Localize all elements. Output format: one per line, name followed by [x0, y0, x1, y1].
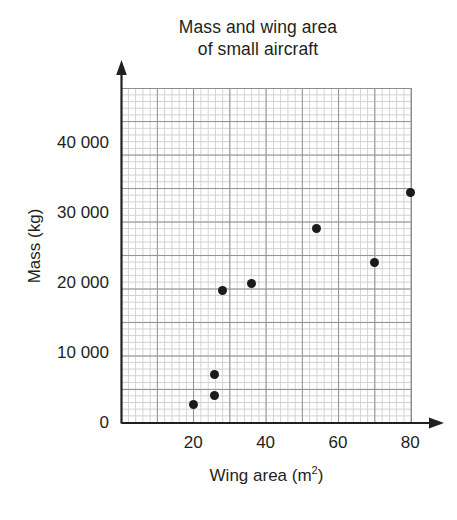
grid-right-edge — [411, 88, 412, 423]
plot-area — [121, 88, 412, 423]
y-axis-tick-label: 10 000 — [17, 343, 109, 363]
data-point — [312, 224, 321, 233]
data-point — [247, 279, 256, 288]
y-axis-tick-label: 40 000 — [17, 133, 109, 153]
chart-title: Mass and wing area of small aircraft — [108, 16, 408, 60]
grid-top-edge — [121, 88, 412, 89]
x-axis-title-tail: ) — [318, 466, 324, 485]
data-point — [370, 258, 379, 267]
y-axis-title: Mass (kg) — [25, 166, 45, 326]
data-point — [189, 400, 198, 409]
x-axis-tick-label: 40 — [242, 433, 290, 453]
data-point — [210, 391, 219, 400]
x-axis-tick-label: 60 — [314, 433, 362, 453]
data-point — [218, 286, 227, 295]
x-axis-tick-label: 20 — [169, 433, 217, 453]
scatter-chart-figure: Mass and wing area of small aircraft 010… — [0, 0, 457, 520]
major-gridlines — [121, 88, 412, 423]
data-point — [406, 188, 415, 197]
x-axis-title-text: Wing area (m — [210, 466, 312, 485]
chart-title-line-2: of small aircraft — [108, 38, 408, 60]
x-axis-title: Wing area (m2) — [121, 466, 412, 486]
y-axis-tick-label: 0 — [17, 413, 109, 433]
x-axis-tick-label: 80 — [386, 433, 434, 453]
chart-title-line-1: Mass and wing area — [108, 16, 408, 38]
